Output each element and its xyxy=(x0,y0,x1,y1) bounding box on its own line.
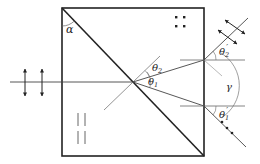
upper-ray-extension xyxy=(204,60,222,76)
theta1-prime-label: θ1′ xyxy=(219,105,229,122)
gamma-label: γ xyxy=(226,81,232,92)
theta1-prime-arc xyxy=(213,106,216,115)
theta2-label: θ2 xyxy=(152,62,162,75)
upper-polarization-arrows xyxy=(218,20,245,44)
lower-polarization-dots xyxy=(221,121,234,135)
optic-axis-lines-icon xyxy=(78,113,85,144)
optic-axis-dots-icon xyxy=(175,16,185,27)
prism-diagram: α θ2 θ1 xyxy=(0,0,260,164)
incident-polarization-arrows xyxy=(25,69,42,96)
alpha-label: α xyxy=(66,23,74,36)
theta2-prime-arc xyxy=(213,51,216,60)
upper-refracted-ray xyxy=(133,60,204,82)
theta1-label: θ1 xyxy=(148,76,158,89)
